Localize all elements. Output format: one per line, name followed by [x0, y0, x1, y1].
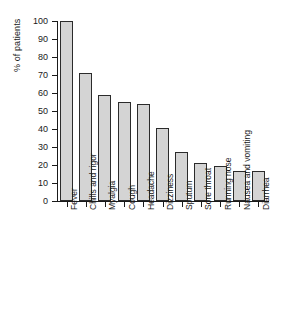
x-axis-label: Cough — [128, 185, 137, 210]
y-tick-label-wrapper: 100 — [16, 17, 48, 26]
x-tick-mark — [105, 202, 106, 207]
y-tick-label: 40 — [18, 125, 48, 134]
y-tick-label-wrapper: 50 — [16, 107, 48, 116]
x-tick-mark — [258, 202, 259, 207]
y-tick-label: 0 — [18, 197, 48, 206]
y-tick-label: 60 — [18, 89, 48, 98]
x-tick-mark — [86, 202, 87, 207]
x-tick-mark — [220, 202, 221, 207]
y-tick-label-wrapper: 30 — [16, 143, 48, 152]
x-tick-mark — [201, 202, 202, 207]
x-axis-label: Dizziness — [166, 174, 175, 210]
bar-chart-figure: % of patients 0102030405060708090100 Fev… — [0, 0, 281, 323]
x-tick-mark — [239, 202, 240, 207]
y-tick-label-wrapper: 0 — [16, 197, 48, 206]
x-tick-mark — [124, 202, 125, 207]
x-tick-mark — [143, 202, 144, 207]
y-tick-mark — [52, 201, 57, 202]
y-tick-label-wrapper: 20 — [16, 161, 48, 170]
x-tick-mark — [67, 202, 68, 207]
x-tick-mark — [163, 202, 164, 207]
y-tick-label-wrapper: 60 — [16, 89, 48, 98]
y-tick-label: 80 — [18, 53, 48, 62]
bar — [60, 21, 73, 201]
x-tick-mark — [182, 202, 183, 207]
y-tick-label-wrapper: 40 — [16, 125, 48, 134]
y-tick-label: 70 — [18, 71, 48, 80]
y-tick-label-wrapper: 70 — [16, 71, 48, 80]
y-tick-label-wrapper: 10 — [16, 179, 48, 188]
y-tick-label-wrapper: 80 — [16, 53, 48, 62]
y-tick-label-wrapper: 90 — [16, 35, 48, 44]
y-tick-label: 20 — [18, 161, 48, 170]
y-tick-label: 50 — [18, 107, 48, 116]
y-tick-label: 10 — [18, 179, 48, 188]
y-tick-label: 90 — [18, 35, 48, 44]
y-tick-label: 100 — [18, 17, 48, 26]
x-axis-label: Myalgia — [108, 181, 117, 210]
y-tick-label: 30 — [18, 143, 48, 152]
x-axis-label: Chills and rigor — [89, 153, 98, 210]
x-axis-label: Diarrhea — [262, 177, 271, 210]
x-axis-label: Headache — [147, 171, 156, 210]
x-axis-label: Fever — [70, 188, 79, 210]
x-axis-label: Sputum — [185, 181, 194, 210]
x-axis-label: Running nose — [224, 158, 233, 210]
x-axis-label: Sore throat — [204, 168, 213, 210]
x-axis-label: Nausea and vomiting — [243, 130, 252, 210]
